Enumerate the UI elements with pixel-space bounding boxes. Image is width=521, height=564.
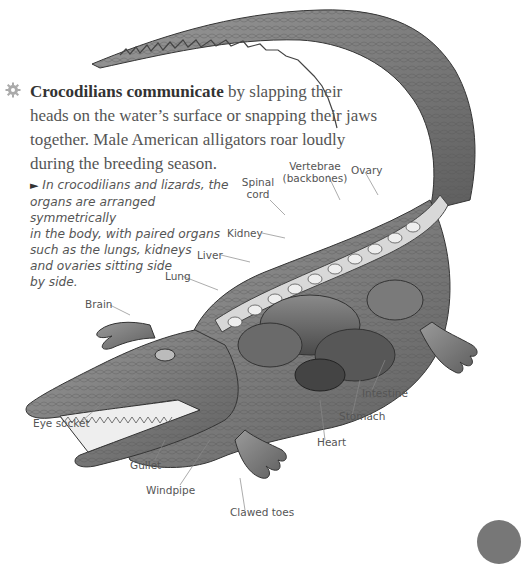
caption-line: In crocodilians and lizards, the <box>42 178 228 192</box>
intro-line: by slapping their <box>224 82 343 101</box>
caption-line: by side. <box>30 274 235 290</box>
caption-line: organs are arranged symmetrically <box>30 194 235 226</box>
page-number-circle <box>477 520 521 564</box>
intro-bold-lead: Crocodilians communicate <box>30 82 224 101</box>
caption-text: ► In crocodilians and lizards, the organ… <box>30 177 235 290</box>
label-ovary: Ovary <box>351 164 382 176</box>
label-heart: Heart <box>317 436 346 448</box>
label-intestine: Intestine <box>362 387 408 399</box>
label-eye-socket: Eye socket <box>33 417 90 429</box>
label-spinal-cord: Spinal cord <box>240 176 276 200</box>
label-liver: Liver <box>197 249 223 261</box>
caption-line: in the body, with paired organs <box>30 226 235 242</box>
label-text: (backbones) <box>280 172 350 184</box>
intro-paragraph: Crocodilians communicate by slapping the… <box>30 80 470 176</box>
label-windpipe: Windpipe <box>146 484 195 496</box>
intro-line: together. Male American alligators roar … <box>30 128 470 152</box>
label-gullet: Gullet <box>130 459 161 471</box>
intro-line: during the breeding season. <box>30 152 470 176</box>
label-stomach: Stomach <box>339 410 385 422</box>
label-clawed-toes: Clawed toes <box>230 506 294 518</box>
label-text: cord <box>240 188 276 200</box>
label-lung: Lung <box>165 270 191 282</box>
label-text: Spinal <box>240 176 276 188</box>
label-vertebrae: Vertebrae (backbones) <box>280 160 350 184</box>
gear-icon <box>5 82 21 98</box>
label-kidney: Kidney <box>227 227 263 239</box>
label-text: Vertebrae <box>280 160 350 172</box>
intro-line: heads on the water’s surface or snapping… <box>30 104 470 128</box>
label-brain: Brain <box>85 298 113 310</box>
triangle-marker-icon: ► <box>30 179 38 192</box>
